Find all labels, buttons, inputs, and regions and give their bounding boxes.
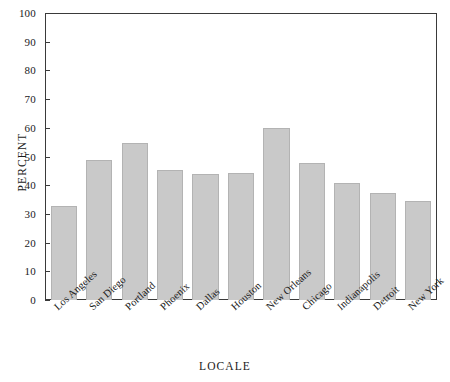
y-tick-label: 10 [25,266,36,277]
x-axis: Los AngelesSan DiegoPortlandPhoenixDalla… [0,300,450,358]
y-tick-label: 100 [19,8,36,19]
x-axis-title: LOCALE [0,360,450,372]
bar [192,174,218,300]
y-tick-label: 80 [25,65,36,76]
y-tick-label: 20 [25,237,36,248]
bar [122,143,148,300]
bars-layer [46,14,436,300]
bar-chart: 0102030405060708090100 PERCENT Los Angel… [0,0,450,382]
bar [263,128,289,300]
bar [334,183,360,300]
y-tick-label: 90 [25,36,36,47]
y-axis-title: PERCENT [16,102,28,222]
bar [157,170,183,300]
bar [228,173,254,300]
